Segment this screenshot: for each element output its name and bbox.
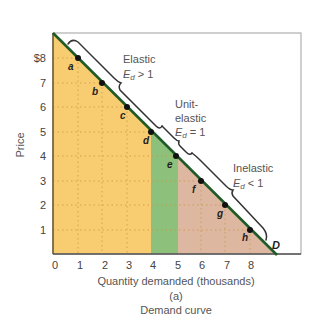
- elastic-label: Elastic: [123, 53, 156, 65]
- point-label-e: e: [167, 159, 173, 170]
- svg-text:2: 2: [40, 199, 46, 211]
- x-axis-title: Quantity demanded (thousands): [97, 275, 254, 287]
- svg-text:4: 4: [40, 150, 46, 162]
- curve-label-D: D: [272, 239, 280, 251]
- inelastic-condition: Ed < 1: [233, 177, 263, 191]
- svg-text:1: 1: [77, 259, 83, 271]
- chart-title: Demand curve: [140, 304, 212, 316]
- y-tick-labels: $8 7 6 5 4 3 2 1: [34, 52, 46, 236]
- point-label-d: d: [143, 135, 150, 146]
- svg-text:2: 2: [102, 259, 108, 271]
- unit-elastic-condition: Ed = 1: [175, 126, 205, 140]
- svg-text:5: 5: [175, 259, 181, 271]
- svg-text:1: 1: [40, 224, 46, 236]
- chart-subtitle: (a): [169, 290, 182, 302]
- svg-text:8: 8: [248, 259, 254, 271]
- svg-text:6: 6: [40, 101, 46, 113]
- svg-text:7: 7: [224, 259, 230, 271]
- svg-text:$8: $8: [34, 52, 46, 64]
- inelastic-label: Inelastic: [233, 162, 274, 174]
- y-axis-title: Price: [14, 132, 26, 157]
- unit-elastic-label-1: Unit-: [175, 98, 199, 110]
- unit-elastic-area: [151, 131, 178, 254]
- point-label-g: g: [216, 208, 223, 219]
- unit-elastic-label-2: elastic: [175, 112, 207, 124]
- svg-text:7: 7: [40, 77, 46, 89]
- svg-text:4: 4: [150, 259, 156, 271]
- demand-chart: a b c d e f g h D Elastic Ed > 1 Unit- e…: [0, 0, 317, 325]
- point-label-a: a: [68, 61, 74, 72]
- point-label-c: c: [120, 110, 126, 121]
- svg-text:3: 3: [40, 175, 46, 187]
- svg-text:3: 3: [126, 259, 132, 271]
- point-label-h: h: [242, 232, 248, 243]
- svg-text:0: 0: [52, 259, 58, 271]
- elastic-condition: Ed > 1: [123, 68, 153, 82]
- svg-text:6: 6: [199, 259, 205, 271]
- x-tick-labels: 0 1 2 3 4 5 6 7 8: [52, 259, 254, 271]
- svg-text:5: 5: [40, 126, 46, 138]
- point-label-b: b: [92, 86, 98, 97]
